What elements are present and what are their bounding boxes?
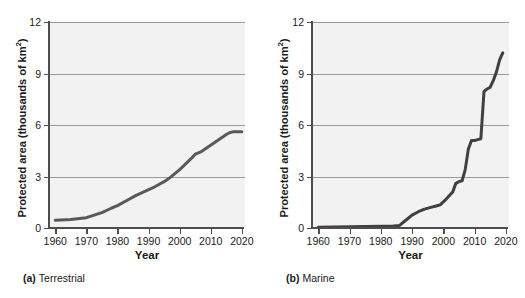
panel-caption-b-text: Marine — [302, 272, 334, 284]
x-axis-line-b — [311, 227, 508, 229]
panel-terrestrial: Protected area (thousands of km2) 036912… — [0, 0, 262, 298]
y-tick-label-3: 3 — [298, 171, 304, 182]
series-line-terrestrial — [49, 22, 245, 228]
y-axis-title-b-close: ) — [278, 39, 290, 43]
x-tick-label-1980: 1980 — [106, 236, 129, 247]
x-tick-label-1980: 1980 — [369, 236, 392, 247]
y-tick-label-12: 12 — [29, 17, 41, 28]
y-tick-label-6: 6 — [35, 120, 41, 131]
x-axis-title-a: Year — [49, 249, 245, 261]
x-tick-label-2010: 2010 — [199, 236, 222, 247]
x-tick-label-1960: 1960 — [307, 236, 330, 247]
panel-caption-a-marker: (a) — [23, 272, 36, 284]
series-line-marine — [312, 22, 509, 228]
x-tick-label-2010: 2010 — [463, 236, 486, 247]
plot-area-terrestrial: 036912 1960197019801990200020102020 — [49, 22, 245, 228]
x-tick-label-1970: 1970 — [75, 236, 98, 247]
y-axis-title-a-superscript: 2 — [14, 42, 23, 46]
x-axis-line-a — [48, 227, 244, 229]
x-tick-label-2020: 2020 — [230, 236, 253, 247]
y-axis-title-a-close: ) — [16, 39, 28, 43]
x-tick-label-2000: 2000 — [432, 236, 455, 247]
y-tick-label-12: 12 — [292, 17, 304, 28]
x-tick-label-2020: 2020 — [494, 236, 517, 247]
y-tick-label-9: 9 — [35, 68, 41, 79]
panel-caption-b: (b)Marine — [286, 272, 335, 284]
y-tick-label-9: 9 — [298, 68, 304, 79]
y-tick-label-6: 6 — [298, 120, 304, 131]
figure-protected-area: Protected area (thousands of km2) 036912… — [0, 0, 525, 298]
y-axis-title-b: Protected area (thousands of km2) — [276, 12, 292, 244]
y-axis-title-a: Protected area (thousands of km2) — [14, 12, 30, 244]
x-tick-label-1990: 1990 — [137, 236, 160, 247]
panel-marine: Protected area (thousands of km2) 036912… — [262, 0, 525, 298]
x-tick-label-2000: 2000 — [168, 236, 191, 247]
panel-caption-b-marker: (b) — [286, 272, 299, 284]
y-axis-title-a-text: Protected area (thousands of km — [16, 47, 28, 218]
y-tick-label-3: 3 — [35, 171, 41, 182]
x-tick-label-1990: 1990 — [400, 236, 423, 247]
x-axis-title-b: Year — [312, 249, 509, 261]
y-axis-line-a — [48, 21, 50, 229]
y-axis-title-b-superscript: 2 — [276, 42, 285, 46]
panel-caption-a: (a)Terrestrial — [23, 272, 85, 284]
x-tick-label-1960: 1960 — [44, 236, 67, 247]
y-tick-label-0: 0 — [35, 223, 41, 234]
plot-area-marine: 036912 1960197019801990200020102020 — [312, 22, 509, 228]
y-axis-title-b-text: Protected area (thousands of km — [278, 47, 290, 218]
y-axis-line-b — [311, 21, 313, 229]
x-tick-label-1970: 1970 — [338, 236, 361, 247]
y-tick-label-0: 0 — [298, 223, 304, 234]
panel-caption-a-text: Terrestrial — [39, 272, 85, 284]
